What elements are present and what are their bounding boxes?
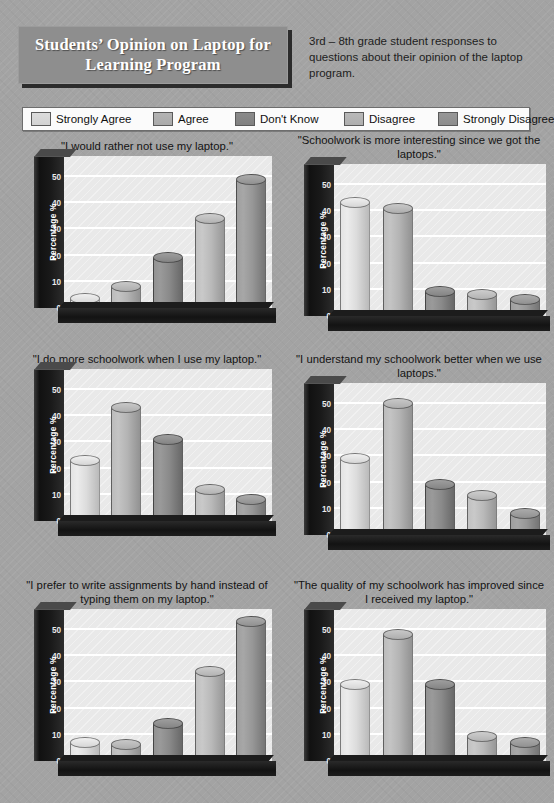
bar-top-ellipse	[195, 484, 225, 495]
plot-area: 01020304050Percentage %	[18, 156, 276, 326]
chart-plinth	[328, 316, 550, 331]
bar	[153, 434, 183, 521]
chart-plinth	[58, 761, 276, 776]
bar-body	[236, 622, 266, 761]
y-axis-tick-label: 50	[52, 385, 61, 394]
bar-top-ellipse	[510, 508, 540, 519]
bar-series	[334, 609, 546, 761]
bar-body	[383, 209, 413, 316]
chart-plinth	[58, 521, 276, 536]
bar-top-ellipse	[467, 490, 497, 501]
bar-body	[153, 440, 183, 521]
bar-body	[153, 258, 183, 308]
bar-chart: "Schoolwork is more interesting since we…	[288, 133, 550, 338]
bar-top-ellipse	[510, 737, 540, 748]
y-axis: 01020304050Percentage %	[304, 609, 334, 761]
bar-series	[64, 156, 272, 308]
bar-body	[340, 459, 370, 535]
poster-title-box: Students’ Opinion on Laptop for Learning…	[18, 26, 288, 84]
bar	[383, 629, 413, 761]
plot-area: 01020304050Percentage %	[18, 369, 276, 539]
page-title: Students’ Opinion on Laptop for Learning…	[19, 35, 287, 75]
bar-body	[340, 685, 370, 761]
bar-series	[64, 609, 272, 761]
bar-body	[425, 485, 455, 535]
legend-label: Disagree	[369, 113, 415, 125]
bar-top-ellipse	[70, 455, 100, 466]
y-axis-tick-label: 10	[52, 490, 61, 499]
bar-top-ellipse	[340, 453, 370, 464]
bar-top-ellipse	[70, 737, 100, 748]
bar-body	[236, 180, 266, 308]
bar	[383, 398, 413, 535]
y-axis-tick-label: 50	[52, 625, 61, 634]
legend-item: Disagree	[344, 112, 434, 126]
bar-chart: "I understand my schoolwork better when …	[288, 352, 550, 557]
poster-header: Students’ Opinion on Laptop for Learning…	[0, 0, 553, 100]
chart-plinth	[58, 308, 276, 323]
bar-top-ellipse	[383, 629, 413, 640]
y-axis: 01020304050Percentage %	[34, 369, 64, 521]
bar-body	[383, 635, 413, 761]
bar-chart: "I would rather not use my laptop."01020…	[18, 139, 276, 344]
legend-label: Strongly Disagree	[463, 113, 554, 125]
y-axis-tick-label: 10	[322, 730, 331, 739]
y-axis-tick-label: 10	[52, 730, 61, 739]
bar-body	[70, 461, 100, 521]
bar-top-ellipse	[340, 679, 370, 690]
legend-swatch-icon	[153, 112, 173, 126]
bar-body	[425, 685, 455, 761]
plot-area: 01020304050Percentage %	[288, 383, 550, 553]
legend-item: Don't Know	[235, 112, 340, 126]
bar-series	[334, 383, 546, 535]
y-axis-tick-label: 50	[52, 172, 61, 181]
legend-swatch-icon	[438, 112, 458, 126]
y-axis-label: Percentage %	[49, 197, 58, 267]
y-axis: 01020304050Percentage %	[304, 164, 334, 316]
y-axis-tick-label: 10	[322, 504, 331, 513]
y-axis: 01020304050Percentage %	[34, 156, 64, 308]
bar-top-ellipse	[195, 666, 225, 677]
plot-area: 01020304050Percentage %	[18, 609, 276, 779]
y-axis-label: Percentage %	[319, 205, 328, 275]
plot-area: 01020304050Percentage %	[288, 609, 550, 779]
chart-plinth	[328, 761, 550, 776]
y-axis: 01020304050Percentage %	[34, 609, 64, 761]
legend-label: Agree	[178, 113, 209, 125]
y-axis: 01020304050Percentage %	[304, 383, 334, 535]
bar	[425, 679, 455, 761]
poster-subtitle: 3rd – 8th grade student responses to que…	[309, 33, 539, 81]
legend-swatch-icon	[31, 112, 51, 126]
bar-body	[111, 408, 141, 521]
bar-body	[195, 219, 225, 308]
bar	[236, 174, 266, 308]
y-axis-label: Percentage %	[319, 650, 328, 720]
bar	[340, 679, 370, 761]
bar-body	[195, 672, 225, 761]
legend-item: Strongly Disagree	[438, 112, 554, 126]
bar	[111, 402, 141, 521]
bar	[153, 252, 183, 308]
legend-swatch-icon	[344, 112, 364, 126]
legend-item: Strongly Agree	[31, 112, 149, 126]
bar	[383, 203, 413, 316]
legend-swatch-icon	[235, 112, 255, 126]
legend-item: Agree	[153, 112, 231, 126]
bar-series	[64, 369, 272, 521]
bar	[70, 455, 100, 521]
bar-body	[383, 404, 413, 535]
bar	[340, 453, 370, 535]
bar	[425, 479, 455, 535]
bar-top-ellipse	[195, 213, 225, 224]
bar	[195, 666, 225, 761]
bar-series	[334, 164, 546, 316]
bar-chart: "I prefer to write assignments by hand i…	[18, 578, 276, 803]
y-axis-label: Percentage %	[319, 424, 328, 494]
y-axis-tick-label: 50	[322, 399, 331, 408]
chart-plinth	[328, 535, 550, 550]
bar-top-ellipse	[236, 174, 266, 185]
legend-label: Don't Know	[260, 113, 318, 125]
y-axis-tick-label: 50	[322, 625, 331, 634]
y-axis-tick-label: 10	[52, 277, 61, 286]
